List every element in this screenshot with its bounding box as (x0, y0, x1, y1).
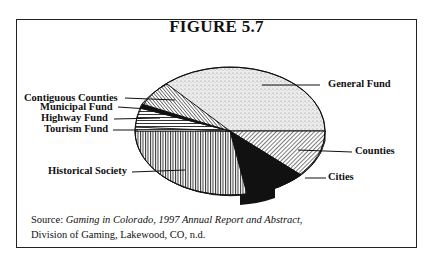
source-line-2: Division of Gaming, Lakewood, CO, n.d. (31, 229, 205, 240)
source-title: Gaming in Colorado, 1997 Annual Report a… (66, 214, 300, 225)
slice-historical-society (135, 131, 247, 195)
label-general-fund: General Fund (328, 78, 391, 89)
label-historical-society: Historical Society (48, 165, 127, 176)
source-prefix: Source: (31, 214, 66, 225)
label-cities: Cities (328, 171, 354, 182)
label-counties: Counties (355, 145, 395, 156)
source-line-1: Source: Gaming in Colorado, 1997 Annual … (31, 214, 302, 225)
label-municipal-fund: Municipal Fund (40, 101, 113, 112)
source-suffix: , (300, 214, 303, 225)
label-tourism-fund: Tourism Fund (44, 123, 108, 134)
label-highway-fund: Highway Fund (41, 112, 108, 123)
